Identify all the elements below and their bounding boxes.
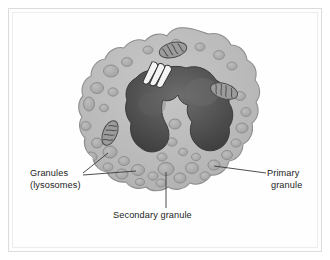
granule: [91, 83, 104, 94]
granule: [104, 65, 119, 77]
granule: [227, 62, 237, 70]
label-granules-line1: Granules: [30, 168, 68, 178]
granule: [214, 51, 225, 60]
label-primary-granule: Primary granule: [267, 168, 302, 191]
granule-lysosome: [132, 165, 145, 176]
granule: [116, 169, 128, 179]
granule: [169, 119, 181, 129]
granule: [156, 179, 166, 187]
granule: [231, 139, 241, 147]
granule: [92, 138, 103, 148]
granule: [122, 58, 133, 67]
label-primary-line1: Primary: [267, 168, 299, 178]
granule: [108, 88, 118, 96]
label-granules-line2: (lysosomes): [30, 180, 81, 190]
granule: [81, 122, 91, 131]
granule: [192, 153, 201, 161]
nucleus-highlight: [138, 92, 166, 116]
granule: [186, 163, 199, 174]
granule: [136, 179, 145, 186]
granule-primary: [103, 146, 117, 158]
granule: [157, 153, 167, 161]
label-granules: Granules (lysosomes): [30, 168, 81, 191]
granule: [241, 108, 251, 117]
granule: [143, 46, 153, 54]
granule: [100, 104, 109, 112]
granule: [119, 157, 130, 166]
granule: [148, 172, 158, 180]
granule: [84, 97, 95, 111]
granule: [85, 152, 97, 162]
label-secondary-granule: Secondary granule: [113, 210, 192, 222]
label-primary-line2: granule: [267, 180, 302, 192]
granule: [174, 173, 186, 183]
granule: [222, 151, 233, 160]
granule-primary-target: [208, 160, 220, 170]
figure-canvas: Granules (lysosomes) Primary granule Sec…: [0, 0, 330, 260]
granule: [179, 148, 188, 156]
granule: [195, 43, 205, 51]
granule: [236, 123, 248, 133]
granule: [103, 163, 113, 171]
